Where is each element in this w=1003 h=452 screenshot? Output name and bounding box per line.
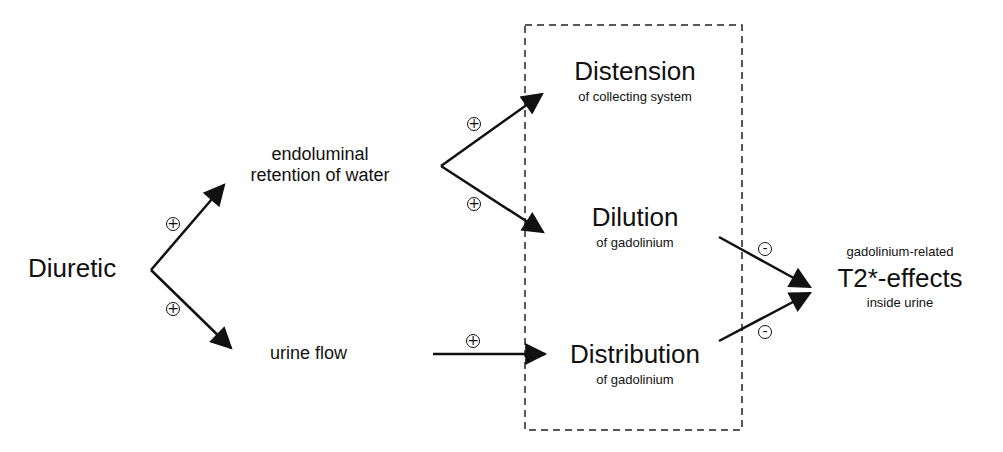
node-t2-suffix: inside urine [810,296,990,311]
sign-plus-retention-dilution: + [467,197,481,211]
node-urine-flow: urine flow [270,343,347,364]
node-distribution-subtitle: of gadolinium [545,373,725,388]
node-t2-title: T2*-effects [810,264,990,294]
sign-plus-retention-distension: + [467,117,481,131]
arrow-retention-to-distension [441,94,542,166]
node-dilution-title: Dilution [545,203,725,233]
node-dilution-subtitle: of gadolinium [545,236,725,251]
node-t2-prefix: gadolinium-related [810,245,990,260]
diagram-canvas [0,0,1003,452]
node-distension: Distension of collecting system [545,57,725,105]
sign-minus-dilution-t2: - [758,242,772,256]
node-distension-title: Distension [545,57,725,87]
sign-plus-urine-distribution: + [466,334,480,348]
arrow-diuretic-to-urine-flow [151,270,231,348]
node-distribution-title: Distribution [545,340,725,370]
node-retention-line1: endoluminal [245,144,395,165]
node-retention-line2: retention of water [245,165,395,186]
node-dilution: Dilution of gadolinium [545,203,725,251]
sign-plus-diuretic-urine: + [166,302,180,316]
node-distribution: Distribution of gadolinium [545,340,725,388]
sign-plus-diuretic-retention: + [166,217,180,231]
node-retention: endoluminal retention of water [245,144,395,185]
node-diuretic: Diuretic [28,254,116,284]
sign-minus-distribution-t2: - [758,325,772,339]
node-t2-effects: gadolinium-related T2*-effects inside ur… [810,245,990,311]
node-distension-subtitle: of collecting system [545,90,725,105]
arrow-retention-to-dilution [441,166,543,232]
arrow-diuretic-to-retention [151,185,224,270]
